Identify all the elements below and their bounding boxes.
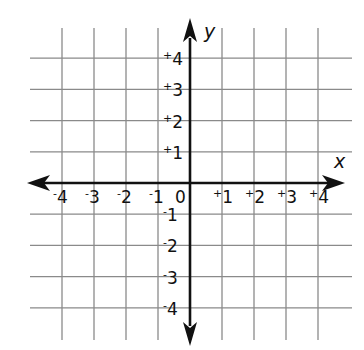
y-axis-label: y — [203, 20, 216, 42]
tick-sign: + — [277, 187, 286, 200]
y-tick-label: -3 — [163, 268, 178, 288]
tick-sign: + — [163, 143, 172, 156]
tick-sign: + — [163, 49, 172, 62]
y-tick-label: +1 — [163, 143, 183, 163]
y-tick-label: -2 — [163, 236, 178, 256]
tick-sign: + — [163, 80, 172, 93]
x-tick-label: -3 — [85, 187, 100, 207]
tick-digit: 4 — [318, 187, 329, 207]
x-tick-label: +3 — [277, 187, 297, 207]
tick-digit: 4 — [167, 299, 178, 319]
y-tick-label: +4 — [163, 49, 183, 69]
tick-digit: 2 — [172, 112, 183, 132]
tick-sign: + — [309, 187, 318, 200]
tick-digit: 2 — [167, 236, 178, 256]
x-tick-label: -2 — [117, 187, 132, 207]
tick-sign: + — [245, 187, 254, 200]
tick-digit: 4 — [172, 49, 183, 69]
x-tick-label: +1 — [213, 187, 233, 207]
x-tick-label: +4 — [309, 187, 329, 207]
coordinate-plane: -4-3-2-1+1+2+3+4+4+3+2+1-1-2-3-4 x y 0 — [0, 0, 364, 350]
tick-digit: 3 — [286, 187, 297, 207]
y-tick-label: -1 — [163, 205, 178, 225]
tick-digit: 2 — [254, 187, 265, 207]
y-tick-label: +3 — [163, 80, 183, 100]
tick-digit: 2 — [121, 187, 132, 207]
tick-digit: 3 — [167, 268, 178, 288]
x-axis-label: x — [333, 150, 346, 172]
tick-digit: 1 — [172, 143, 183, 163]
tick-sign: + — [213, 187, 222, 200]
y-tick-label: +2 — [163, 112, 183, 132]
axes — [27, 18, 345, 346]
y-tick-label: -4 — [163, 299, 178, 319]
tick-digit: 4 — [57, 187, 68, 207]
tick-sign: + — [163, 112, 172, 125]
tick-digit: 1 — [153, 187, 164, 207]
x-tick-label: -4 — [53, 187, 68, 207]
tick-digit: 1 — [167, 205, 178, 225]
x-tick-label: +2 — [245, 187, 265, 207]
tick-digit: 3 — [172, 80, 183, 100]
origin-label: 0 — [175, 187, 186, 207]
tick-digit: 3 — [89, 187, 100, 207]
x-tick-label: -1 — [149, 187, 164, 207]
tick-digit: 1 — [222, 187, 233, 207]
